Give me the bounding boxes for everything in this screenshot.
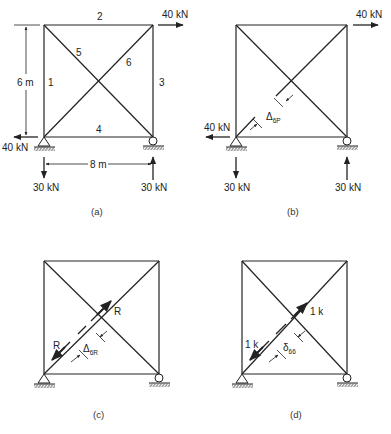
pin-support-icon [226, 137, 247, 151]
reaction-label-left: 30 kN [224, 182, 250, 193]
panel-c: R R Δ6R (c) [34, 261, 170, 420]
roller-support-icon [337, 137, 358, 150]
force-label-upper: 1 k [310, 306, 324, 317]
force-label-upper: R [114, 306, 121, 317]
panel-d: 1 k 1 k δ66 (d) [232, 261, 358, 420]
dimension-label-width: 8 m [90, 159, 107, 170]
force-arrow-upper-icon [97, 301, 111, 315]
member-label-5: 5 [76, 47, 82, 58]
panel-a: 40 kN 40 kN 30 kN 30 kN 6 m 8 m 1 2 3 4 … [2, 9, 188, 217]
panel-caption-b: (b) [287, 206, 299, 217]
force-label-lower: 1 k [245, 339, 259, 350]
member-label-2: 2 [97, 11, 103, 22]
truss-figure: 40 kN 40 kN 30 kN 30 kN 6 m 8 m 1 2 3 4 … [0, 0, 391, 434]
truss-frame-d [242, 261, 347, 374]
truss-frame-b [236, 25, 347, 137]
force-arrow-upper-icon [294, 303, 307, 316]
truss-frame-c [44, 261, 159, 374]
gap-label-66: δ66 [283, 342, 296, 355]
reaction-label-left: 30 kN [33, 182, 59, 193]
dimension-label-height: 6 m [17, 77, 34, 88]
pin-support-icon [232, 374, 253, 388]
panel-caption-a: (a) [91, 206, 103, 217]
roller-support-icon [149, 374, 170, 387]
pin-support-icon [34, 374, 55, 388]
panel-caption-c: (c) [93, 409, 104, 420]
member-label-3: 3 [159, 77, 165, 88]
load-label-bottom-left: 40 kN [2, 142, 28, 153]
gap-label-6P: Δ6P [266, 111, 281, 124]
load-label-bottom-left: 40 kN [204, 122, 230, 133]
member-label-6: 6 [126, 57, 132, 68]
reaction-label-right: 30 kN [141, 182, 167, 193]
truss-frame-a [44, 25, 153, 137]
load-label-top-right: 40 kN [162, 9, 188, 20]
force-label-lower: R [53, 340, 60, 351]
panel-b: Δ6P 40 kN 40 kN 30 kN 30 kN (b) [204, 9, 382, 217]
gap-label-6R: Δ6R [83, 343, 98, 356]
roller-support-icon [337, 374, 358, 387]
member-label-4: 4 [96, 124, 102, 135]
roller-support-icon [143, 137, 164, 150]
load-label-top-right: 40 kN [356, 9, 382, 20]
member-6-lower-segment [236, 117, 255, 137]
reaction-label-right: 30 kN [335, 182, 361, 193]
member-label-1: 1 [48, 77, 54, 88]
panel-caption-d: (d) [290, 409, 302, 420]
pin-support-icon [34, 137, 55, 151]
member-6-upper-segment [276, 25, 347, 96]
